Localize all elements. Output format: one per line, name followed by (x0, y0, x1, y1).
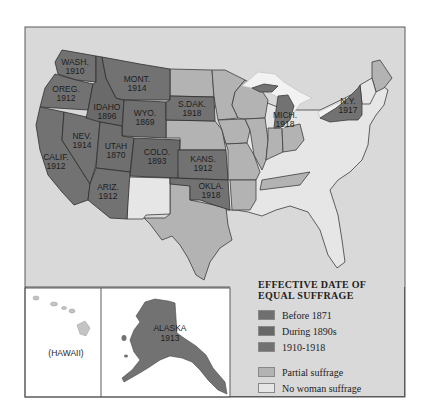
label-california: CALIF.1912 (43, 152, 69, 171)
label-oklahoma: OKLA.1918 (198, 181, 223, 200)
legend-label: During 1890s (282, 326, 337, 337)
state-new-mexico (127, 177, 170, 219)
label-nevada: NEV.1914 (72, 131, 91, 150)
label-wyoming: WYO.1869 (134, 108, 157, 127)
label-new-york: N.Y.1917 (339, 96, 358, 115)
legend-swatch (258, 383, 275, 393)
label-hawaii: (HAWAII) (48, 348, 83, 358)
legend-item-during-1890s: During 1890s (258, 323, 408, 339)
legend-title: EFFECTIVE DATE OF EQUAL SUFFRAGE (258, 279, 408, 301)
label-utah: UTAH1870 (105, 141, 128, 160)
legend-item-none: No woman suffrage (258, 380, 408, 396)
state-arkansas (230, 180, 256, 210)
legend-swatch (258, 326, 275, 336)
state-north-dakota (170, 69, 214, 97)
label-colorado: COLO.1893 (144, 147, 170, 166)
label-montana: MONT.1914 (124, 74, 150, 93)
legend-label: Partial suffrage (282, 367, 343, 378)
legend-title-line-1: EFFECTIVE DATE OF (258, 279, 408, 290)
legend-item-before-1871: Before 1871 (258, 307, 408, 323)
legend-label: No woman suffrage (282, 383, 361, 394)
label-arizona: ARIZ.1912 (97, 182, 119, 201)
label-kansas: KANS.1912 (190, 154, 216, 173)
legend: EFFECTIVE DATE OF EQUAL SUFFRAGE Before … (258, 279, 408, 396)
legend-swatch (258, 342, 275, 352)
legend-label: Before 1871 (282, 310, 332, 321)
legend-swatch (258, 310, 275, 320)
legend-item-partial: Partial suffrage (258, 364, 408, 380)
legend-label: 1910-1918 (282, 342, 325, 353)
legend-title-line-2: EQUAL SUFFRAGE (258, 290, 408, 301)
legend-item-1910-1918: 1910-1918 (258, 339, 408, 355)
label-michigan: MICH.1918 (273, 110, 297, 129)
legend-swatch (258, 367, 275, 377)
